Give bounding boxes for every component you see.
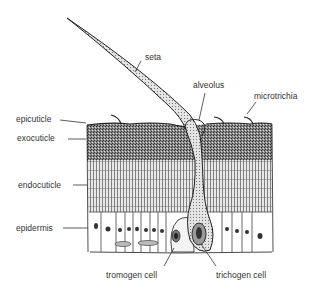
label-exocuticle: exocuticle [17,133,55,143]
trichogen-cell [192,223,206,245]
label-trichogen-cell: trichogen cell [216,270,266,280]
label-epicuticle: epicuticle [16,114,52,124]
label-seta: seta [145,52,161,62]
label-alveolus: alveolus [193,80,224,90]
label-microtrichia: microtrichia [254,91,298,101]
integument-diagram: seta alveolus microtrichia epicuticle ex… [0,0,325,299]
label-tromogen-cell: tromogen cell [106,270,157,280]
endocuticle-layer [88,160,272,212]
exocuticle-layer [87,123,272,162]
label-endocuticle: endocuticle [18,180,61,190]
label-epidermis: epidermis [16,223,53,233]
